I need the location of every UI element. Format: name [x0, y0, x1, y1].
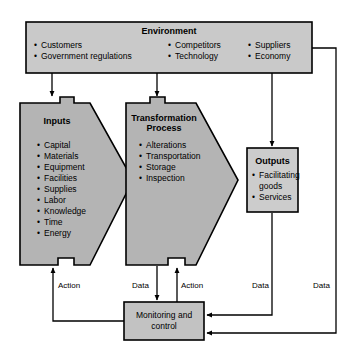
- arrow-action-to-inputs: [53, 268, 124, 321]
- outputs-box: [247, 148, 298, 212]
- inputs-shape: [20, 97, 133, 265]
- arrow-data-outputs-to-monitoring: [207, 213, 272, 315]
- diagram-canvas: [0, 0, 347, 348]
- environment-box: [26, 22, 312, 73]
- transformation-shape: [126, 97, 238, 265]
- diagram-root: Environment •Customers •Government regul…: [0, 0, 347, 348]
- monitoring-box: [124, 302, 204, 340]
